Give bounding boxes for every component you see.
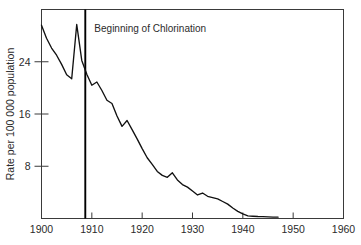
chart-figure: 81624 1900191019201930194019501960 Rate … — [0, 0, 361, 245]
x-tick-label-1940: 1940 — [231, 223, 255, 235]
x-tick-label-1960: 1960 — [332, 223, 356, 235]
x-tick-label-1930: 1930 — [181, 223, 205, 235]
beginning-of-chlorination-label: Beginning of Chlorination — [94, 23, 206, 34]
y-axis-title: Rate per 100 000 population — [4, 48, 16, 181]
y-tick-label-8: 8 — [25, 160, 31, 172]
chart-background — [0, 0, 361, 245]
x-tick-label-1910: 1910 — [80, 223, 104, 235]
x-tick-label-1920: 1920 — [130, 223, 154, 235]
x-tick-label-1950: 1950 — [281, 223, 305, 235]
y-tick-label-16: 16 — [19, 108, 31, 120]
y-tick-label-24: 24 — [19, 56, 31, 68]
x-tick-label-1900: 1900 — [30, 223, 54, 235]
typhoid-chlorination-line-chart: 81624 1900191019201930194019501960 Rate … — [0, 0, 361, 245]
